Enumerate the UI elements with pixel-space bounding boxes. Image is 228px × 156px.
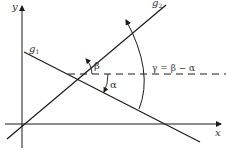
- diagram-canvas: [0, 0, 228, 156]
- beta-label: β: [94, 61, 100, 71]
- g2-label: g2: [152, 0, 162, 11]
- gamma-formula-label: γ = β − α: [152, 63, 195, 73]
- gamma-arc: [126, 20, 144, 109]
- line-g2: [7, 5, 166, 139]
- g1-subscript: 1: [35, 48, 39, 55]
- angle-between-lines-diagram: y x g1 g2 β α γ = β − α: [0, 0, 228, 156]
- y-axis-label: y: [12, 2, 18, 12]
- alpha-arc: [104, 74, 108, 92]
- g1-label: g1: [29, 44, 39, 57]
- g2-subscript: 2: [158, 2, 162, 9]
- x-axis-label: x: [215, 128, 221, 138]
- alpha-label: α: [110, 80, 117, 90]
